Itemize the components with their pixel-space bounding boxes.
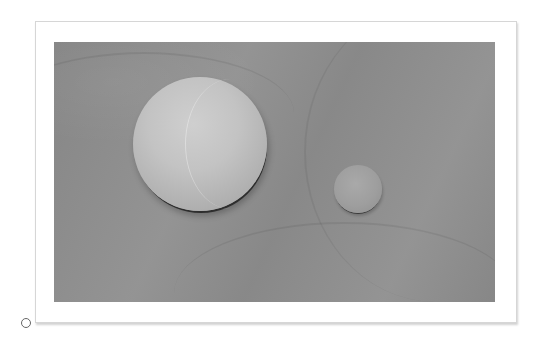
photo [54, 42, 495, 302]
image-frame [35, 21, 517, 323]
large-sphere [133, 77, 267, 211]
sphere-seam [185, 79, 276, 209]
bullet-circle-icon [21, 318, 31, 328]
small-sphere [334, 165, 382, 213]
